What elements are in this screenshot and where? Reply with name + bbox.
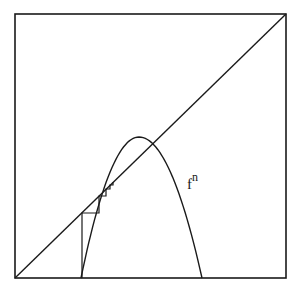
cobweb-path [82,182,113,278]
identity-diagonal [15,14,286,278]
curve-label: fn [187,172,198,193]
curve-label-superscript: n [192,170,198,184]
cobweb-diagram: fn [0,0,299,291]
diagram-svg [0,0,299,291]
